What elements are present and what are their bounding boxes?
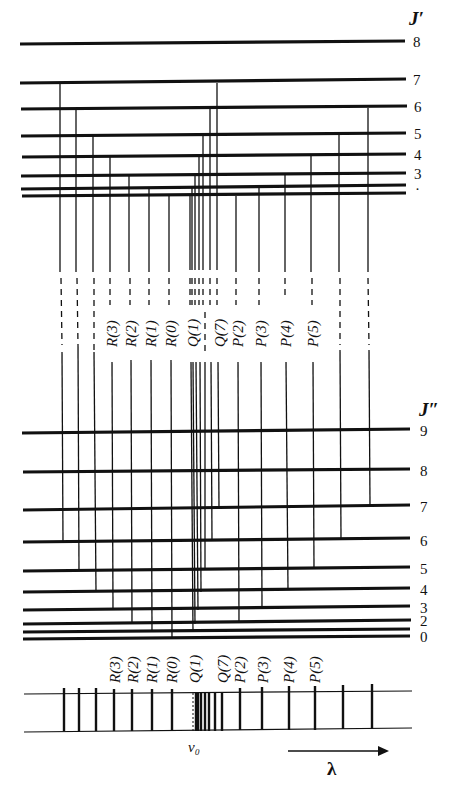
- label-R0: R(0): [163, 320, 180, 348]
- lower-J-4: 4: [420, 582, 428, 598]
- transition-Q3-lower: [196, 362, 198, 610]
- lower-state-label: J″: [418, 399, 439, 420]
- lower-level-numbers: 9 8 7 6 5 4 3 2 0: [420, 423, 428, 645]
- lower-level-6: [23, 538, 410, 542]
- transition-R0-lower: [171, 360, 172, 638]
- upper-level-4: [22, 154, 406, 157]
- spec-label-R3: R(3): [107, 656, 124, 684]
- lower-J-5: 5: [420, 561, 428, 577]
- label-R2: R(2): [123, 320, 140, 348]
- lower-level-5: [23, 567, 410, 571]
- lower-levels: [22, 429, 411, 639]
- lower-J-2: 2: [420, 613, 428, 629]
- spec-label-P3: P(3): [255, 656, 272, 684]
- lower-level-4: [23, 588, 410, 592]
- spec-label-R1: R(1): [144, 656, 161, 684]
- transition-P6-lower: [340, 350, 341, 538]
- branch-labels-spectrum: R(3) R(2) R(1) R(0) Q(1) Q(7) P(2) P(3) …: [107, 655, 324, 684]
- diagram-canvas: J′ 8 7 6 5 4 3 · J″ 9 8 7 6: [0, 0, 457, 796]
- transition-Q6-lower: [211, 362, 212, 541]
- upper-level-6: [21, 106, 407, 109]
- label-P2: P(2): [230, 320, 247, 348]
- wavelength-arrow: [288, 746, 389, 756]
- wavelength-label: λ: [327, 758, 337, 779]
- transition-R6-lower: [62, 352, 63, 542]
- lower-level-3: [23, 606, 410, 610]
- transition-R5-dash: [77, 278, 78, 345]
- spec-label-P5: P(5): [307, 656, 324, 684]
- upper-level-5: [21, 133, 406, 136]
- upper-state-label: J′: [408, 8, 424, 29]
- lower-J-8: 8: [420, 463, 428, 479]
- label-R3: R(3): [104, 320, 121, 348]
- label-P3: P(3): [253, 320, 270, 348]
- lower-level-0: [23, 636, 410, 639]
- q-branch-lines: [190, 83, 219, 632]
- label-R1: R(1): [143, 320, 160, 348]
- lower-level-1: [23, 629, 410, 632]
- upper-level-2: [21, 185, 406, 189]
- lower-level-2: [23, 620, 411, 624]
- lower-J-9: 9: [420, 423, 428, 439]
- spectrum-top-border: [24, 691, 412, 694]
- spec-label-P2: P(2): [232, 656, 249, 684]
- spectrum-bottom-border: [24, 728, 412, 732]
- lower-J-7: 7: [420, 499, 428, 515]
- lower-J-0: 0: [420, 629, 428, 645]
- lower-level-8: [23, 469, 410, 472]
- upper-level-3: [21, 173, 406, 176]
- spec-label-Q1: Q(1): [187, 655, 204, 683]
- lower-J-6: 6: [420, 533, 428, 549]
- upper-levels: [20, 41, 407, 196]
- upper-J-4: 4: [414, 147, 422, 163]
- spec-label-Q7: Q(7): [215, 655, 232, 683]
- upper-J-8: 8: [413, 34, 421, 50]
- upper-J-6: 6: [414, 99, 422, 115]
- lower-level-9: [22, 429, 410, 433]
- upper-level-1: [22, 193, 406, 196]
- transition-P7-lower: [369, 350, 370, 505]
- transition-P4-lower: [286, 362, 288, 589]
- label-P4: P(4): [278, 320, 295, 348]
- transition-R3-lower: [112, 362, 113, 609]
- transition-Q7-lower: [218, 362, 219, 508]
- transition-P3-lower: [261, 362, 262, 608]
- upper-level-7: [20, 79, 406, 83]
- upper-level-8: [20, 41, 405, 44]
- label-Q1: Q(1): [185, 319, 202, 347]
- upper-level-numbers: 8 7 6 5 4 3 ·: [413, 34, 422, 197]
- transition-P7-dash: [368, 278, 369, 345]
- upper-J-3: 3: [414, 166, 422, 182]
- spec-label-R2: R(2): [125, 656, 142, 684]
- label-P5: P(5): [305, 320, 322, 348]
- spectrum-strip: [24, 684, 412, 732]
- lower-level-7: [23, 505, 410, 510]
- transition-R2-lower: [131, 360, 132, 623]
- upper-J-7: 7: [413, 72, 421, 88]
- upper-J-2: ·: [415, 181, 420, 197]
- branch-labels-middle: R(3) R(2) R(1) R(0) Q(1) Q(7) P(2) P(3) …: [104, 319, 322, 348]
- band-origin-label: ν₀: [188, 739, 200, 755]
- spec-label-P4: P(4): [281, 656, 298, 684]
- transition-P5-lower: [313, 362, 314, 568]
- transition-R6-dash: [61, 278, 62, 345]
- transition-Q2-lower: [193, 362, 195, 624]
- transitions: [60, 83, 370, 638]
- transition-R5-lower: [78, 345, 79, 570]
- upper-J-5: 5: [414, 126, 422, 142]
- label-Q7: Q(7): [212, 319, 229, 347]
- arrow-right-icon: [378, 746, 389, 756]
- transition-Q4-lower: [200, 362, 201, 592]
- spec-label-R0: R(0): [164, 656, 181, 684]
- transition-P2-lower: [238, 362, 239, 622]
